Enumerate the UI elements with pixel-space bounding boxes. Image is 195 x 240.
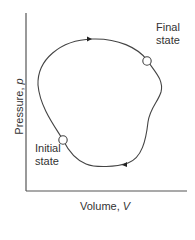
x-axis-symbol: V: [123, 200, 130, 212]
y-axis-label: Pressure, p: [13, 67, 26, 147]
initial-label-line1: Initial: [35, 142, 75, 155]
final-state-marker: [143, 57, 151, 65]
final-label-line1: Final: [148, 21, 188, 34]
x-axis-label-text: Volume,: [80, 200, 123, 212]
final-label-line2: state: [148, 34, 188, 47]
x-axis-label: Volume, V: [80, 200, 130, 213]
initial-label-line2: state: [35, 155, 75, 168]
initial-state-label: Initial state: [35, 142, 75, 168]
y-axis-label-text: Pressure,: [13, 85, 25, 135]
direction-arrow-top-icon: [87, 37, 92, 42]
final-state-label: Final state: [148, 21, 188, 47]
y-axis-symbol: p: [13, 78, 25, 84]
